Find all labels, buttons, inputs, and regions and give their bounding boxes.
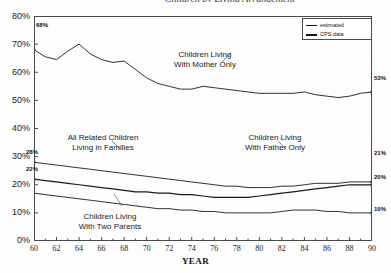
y-tick-label: 20% [0,179,30,189]
annotation-line: Children Living [245,133,305,143]
legend-item-estimated[interactable]: estimated [306,21,368,30]
x-tick-label: 62 [47,244,67,253]
x-tick-label: 84 [294,244,314,253]
x-tick-label: 68 [114,244,134,253]
x-tick-label: 82 [272,244,292,253]
legend-line-swatch-icon [306,34,317,36]
annotation-father-only: Children Living With Father Only [245,133,305,152]
legend: estimated CPS data [302,18,372,40]
y-tick-label: 70% [0,39,30,49]
legend-label: CPS data [320,30,344,39]
value-label-allrelated-end: 21% [374,150,386,156]
x-tick-label: 90 [362,244,382,253]
y-tick-label: 10% [0,207,30,217]
chart-title: Children by Living Arrangement [120,0,340,2]
annotation-two-parents: Children Living With Two Parents [79,212,142,231]
x-tick-label: 72 [159,244,179,253]
legend-item-cps-data[interactable]: CPS data [306,30,368,39]
annotation-line: Children Living [79,212,142,222]
annotation-line: With Father Only [245,143,305,153]
value-label-mother-start: 68% [36,22,48,28]
x-tick-label: 78 [227,244,247,253]
value-label-allrelated-start: 28% [26,149,38,155]
y-tick-label: 50% [0,95,30,105]
x-tick-label: 80 [249,244,269,253]
annotation-line: Living in Families [68,143,139,153]
annotation-line: With Two Parents [79,222,142,232]
x-tick-label: 66 [92,244,112,253]
legend-label: estimated [320,21,344,30]
y-tick-label: 60% [0,67,30,77]
annotation-line: With Mother Only [174,60,236,70]
annotation-line: All Related Children [68,133,139,143]
value-label-father-end: 20% [374,174,386,180]
y-tick-label: 80% [0,11,30,21]
value-label-mother-end: 53% [374,75,386,81]
y-tick-label: 40% [0,123,30,133]
x-tick-label: 88 [339,244,359,253]
x-axis-title: YEAR [0,256,391,266]
x-tick-label: 86 [317,244,337,253]
chart-container: Children by Living Arrangement 80% 70% 6… [0,0,391,273]
annotation-line: Children Living [174,50,236,60]
x-tick-label: 64 [69,244,89,253]
value-label-twoparents-end: 10% [374,206,386,212]
legend-line-swatch-icon [306,25,317,26]
value-label-father-start: 22% [26,166,38,172]
x-tick-label: 60 [24,244,44,253]
x-tick-label: 76 [204,244,224,253]
annotation-all-related: All Related Children Living in Families [68,133,139,152]
x-tick-label: 74 [182,244,202,253]
annotation-mother-only: Children Living With Mother Only [174,50,236,69]
x-tick-label: 70 [137,244,157,253]
